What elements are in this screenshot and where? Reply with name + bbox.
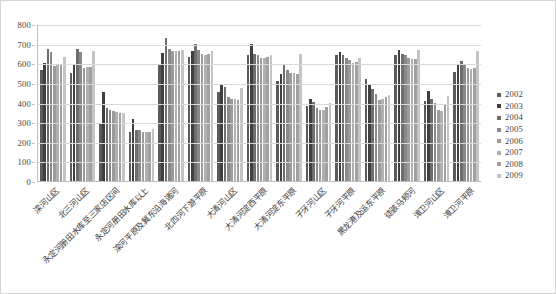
bar — [375, 94, 378, 181]
bar — [467, 68, 470, 181]
bar — [365, 79, 368, 181]
bar — [152, 129, 155, 181]
legend-swatch-icon — [497, 162, 501, 166]
bar — [437, 110, 440, 181]
bar — [316, 108, 319, 181]
bar — [135, 130, 138, 181]
bar — [447, 96, 450, 181]
bar — [142, 132, 145, 181]
legend-item-label: 2002 — [505, 90, 523, 99]
bar — [286, 70, 289, 181]
bar — [378, 100, 381, 181]
bar — [227, 97, 230, 181]
bar — [440, 111, 443, 181]
gridline — [38, 143, 481, 144]
bar — [148, 132, 151, 181]
bar — [234, 99, 237, 181]
y-axis-tick-mark — [32, 84, 35, 85]
bar — [381, 99, 384, 181]
legend-item-label: 2008 — [505, 160, 523, 169]
x-axis-tick-label: 徒骇马颊河 — [382, 186, 417, 221]
bar — [220, 85, 223, 181]
bar — [47, 49, 50, 181]
bar — [112, 111, 115, 181]
legend-swatch-icon — [497, 93, 501, 97]
bar — [76, 49, 79, 181]
bar — [309, 99, 312, 181]
bar — [237, 100, 240, 181]
legend-item-label: 2005 — [505, 125, 523, 134]
bar — [312, 102, 315, 181]
y-axis-tick-label: 400 — [18, 99, 32, 108]
bar — [280, 74, 283, 181]
legend-swatch-icon — [497, 116, 501, 120]
bar — [138, 130, 141, 181]
legend-item[interactable]: 2004 — [497, 112, 551, 124]
y-axis-tick-mark — [32, 143, 35, 144]
legend-item-label: 2003 — [505, 102, 523, 111]
legend-swatch-icon — [497, 174, 501, 178]
x-axis-tick-label: 永定河册田水库以上 — [93, 186, 150, 243]
y-axis-tick-label: 100 — [18, 158, 32, 167]
bar — [224, 87, 227, 181]
gridline — [38, 84, 481, 85]
bar-chart: 8007006005004003002001000 滦河山区北三河山区永定河册田… — [0, 0, 556, 294]
bar — [322, 110, 325, 181]
bar — [109, 110, 112, 181]
plot-area — [37, 25, 481, 182]
gridline — [38, 45, 481, 46]
gridline — [38, 25, 481, 26]
y-axis: 8007006005004003002001000 — [1, 25, 35, 182]
bar — [430, 99, 433, 181]
legend-swatch-icon — [497, 128, 501, 132]
y-axis-tick-mark — [32, 64, 35, 65]
y-axis-tick-mark — [32, 45, 35, 46]
bar — [197, 50, 200, 181]
y-axis-tick-label: 600 — [18, 60, 32, 69]
bar — [325, 107, 328, 181]
bar — [181, 50, 184, 181]
bar — [240, 88, 243, 181]
y-axis-tick-mark — [32, 25, 35, 26]
legend-item[interactable]: 2006 — [497, 135, 551, 147]
legend-item[interactable]: 2008 — [497, 159, 551, 171]
legend-item[interactable]: 2002 — [497, 89, 551, 101]
bar — [424, 101, 427, 181]
legend-item-label: 2009 — [505, 171, 523, 180]
x-axis-tick-label: 漳卫河平原 — [441, 186, 476, 221]
bar — [417, 50, 420, 181]
legend-item[interactable]: 2009 — [497, 170, 551, 182]
legend-item-label: 2007 — [505, 148, 523, 157]
legend-swatch-icon — [497, 139, 501, 143]
bar — [102, 92, 105, 181]
bar — [293, 73, 296, 181]
y-axis-tick-mark — [32, 123, 35, 124]
y-axis-tick-mark — [32, 182, 35, 183]
bar — [106, 108, 109, 181]
bar — [217, 92, 220, 181]
gridline — [38, 104, 481, 105]
y-axis-tick-label: 300 — [18, 119, 32, 128]
bar — [289, 73, 292, 181]
chart-legend: 20022003200420052006200720082009 — [497, 89, 551, 182]
y-axis-tick-label: 200 — [18, 138, 32, 147]
legend-item-label: 2006 — [505, 137, 523, 146]
bar — [388, 95, 391, 181]
legend-item[interactable]: 2003 — [497, 101, 551, 113]
y-axis-tick-label: 500 — [18, 79, 32, 88]
gridline — [38, 64, 481, 65]
bar — [276, 81, 279, 181]
y-axis-tick-label: 800 — [18, 21, 32, 30]
legend-item[interactable]: 2005 — [497, 124, 551, 136]
y-axis-tick-label: 700 — [18, 40, 32, 49]
bar — [99, 124, 102, 181]
y-axis-tick-label: 0 — [27, 178, 32, 187]
bar — [319, 110, 322, 181]
legend-item[interactable]: 2007 — [497, 147, 551, 159]
gridline — [38, 162, 481, 163]
bar — [129, 132, 132, 181]
x-axis-labels: 滦河山区北三河山区永定河册田水库至三家店区间永定河册田水库以上滦河平原及冀东沿海… — [37, 184, 481, 292]
bar — [470, 69, 473, 181]
bar — [296, 74, 299, 181]
legend-swatch-icon — [497, 151, 501, 155]
